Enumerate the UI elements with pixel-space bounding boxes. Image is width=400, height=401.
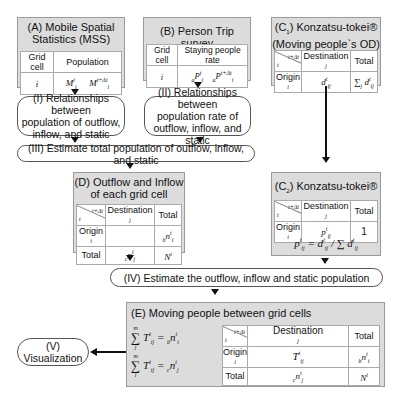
cell-inflow: cntj [248, 368, 349, 386]
col-grid-cell: Grid cell [21, 52, 54, 73]
panel-c1-konzatsu-od: (C1) Konzatsu-tokei® (Moving people`s OD… [271, 17, 381, 86]
panel-b-person-trip: (B) Person Trip survey Grid cell Staying… [143, 17, 251, 81]
cell-outflow: bnti [155, 226, 182, 247]
panel-d-outflow-inflow: (D) Outflow and Inflow of each grid cell… [73, 172, 185, 253]
col-staying-rate: Staying people rate [178, 45, 248, 66]
step-iii: (III) Estimate total population of outfl… [17, 145, 255, 162]
panel-e-title: (E) Moving people between grid cells [127, 303, 384, 319]
connector-e-to-v [96, 351, 126, 353]
panel-d-title-line2: of each grid cell [74, 188, 184, 200]
panel-e-moving-people: (E) Moving people between grid cells m ∑… [126, 302, 385, 387]
step-v-visualization: (V) Visualization [17, 338, 89, 366]
panel-c1-title-line2: (Moving people`s OD) [272, 38, 380, 50]
row-total: Total [223, 368, 248, 386]
col-total: Total [351, 201, 378, 222]
corner-cell: t+Δt t [275, 51, 302, 72]
row-origin: Origini [223, 347, 248, 368]
m-t: Mti [66, 78, 77, 88]
p-t: aPti [192, 71, 204, 81]
row-total: Total [77, 247, 106, 265]
arrow-c1-to-c2 [322, 157, 330, 163]
cell-rate-values: aPti aPt+Δti [178, 66, 248, 88]
col-total: Total [155, 205, 182, 226]
step-v-line2: Visualization [24, 352, 83, 364]
panel-a-title-line1: (A) Mobile Spatial [18, 21, 124, 33]
step-v-line1: (V) [24, 340, 83, 352]
cell-i: i [147, 66, 178, 88]
step-iv: (IV) Estimate the outflow, inflow and st… [110, 268, 383, 287]
step-iv-text: (IV) Estimate the outflow, inflow and st… [124, 272, 370, 284]
arrow-iii-to-d [126, 163, 134, 169]
col-total: Total [349, 326, 380, 347]
panel-c1-title: (C1) Konzatsu-tokei® (Moving people`s OD… [272, 18, 380, 50]
col-grid-cell: Grid cell [147, 45, 178, 66]
arrow-e-to-v [90, 348, 97, 356]
row-origin: Origini [275, 72, 302, 93]
panel-a-mss: (A) Mobile Spatial Statistics (MSS) Grid… [17, 17, 125, 88]
col-total: Total [351, 51, 378, 72]
row-i: i [36, 79, 39, 89]
equation-outflow: m ∑ j Ttij = bnti [131, 325, 191, 351]
corner-cell: t+Δt t [77, 205, 106, 226]
panel-c2-title-text: (C2) Konzatsu-tokei® [272, 180, 380, 197]
panel-c1-title-line1: (C1) Konzatsu-tokei® [272, 21, 380, 38]
col-destination: Destinationj [106, 205, 155, 226]
arrow-d-to-iv [126, 255, 134, 261]
cell-grand-total: Nt [155, 247, 182, 265]
cell-grand-total: Nt [349, 368, 380, 386]
step-ii-line2: population rate of [145, 110, 250, 122]
panel-d-title-line1: (D) Outflow and Inflow [74, 176, 184, 188]
col-destination: Destinationj [302, 201, 351, 222]
row-i: i [161, 72, 163, 82]
panel-a-title: (A) Mobile Spatial Statistics (MSS) [18, 18, 124, 45]
step-iii-text: (III) Estimate total population of outfl… [18, 142, 254, 166]
panel-a-title-line2: Statistics (MSS) [18, 33, 124, 45]
m-t-dt: Mt+Δti [89, 78, 109, 88]
p-t-dt: aPt+Δti [213, 71, 234, 81]
connector-c1-c2 [325, 86, 327, 158]
panel-c2-konzatsu: (C2) Konzatsu-tokei® t+Δt t Destinationj… [271, 172, 381, 256]
corner-cell: t+Δt t [275, 201, 302, 222]
cell-sum-d: ∑j dtij [351, 72, 378, 93]
corner-cell: t+Δt t [223, 326, 248, 347]
row-origin: Origini [77, 226, 106, 247]
formula-p-ij: ptij = dtij / ∑ dtij [272, 237, 380, 251]
cell-t-ij: Ttij [248, 347, 349, 368]
step-i-line1: (I) Relationships between [18, 92, 124, 116]
cell-outflow: bnti [349, 347, 380, 368]
equation-inflow: m ∑ i Ttij = cntj [131, 353, 191, 379]
panel-e-table: t+Δt t Destinationj Total Origini Ttij b… [222, 325, 380, 386]
step-ii-line1: (II) Relationships between [145, 86, 250, 110]
step-ii: (II) Relationships between population ra… [144, 96, 251, 136]
panel-d-title: (D) Outflow and Inflow of each grid cell [74, 173, 184, 200]
cell-empty [106, 226, 155, 247]
col-population: Population [54, 52, 122, 73]
panel-e-title-text: (E) Moving people between grid cells [131, 307, 384, 319]
col-destination: Destinationj [302, 51, 351, 72]
step-i: (I) Relationships between population of … [17, 96, 125, 136]
col-destination: Destinationj [248, 326, 349, 347]
step-i-line2: population of outflow, [18, 116, 124, 128]
arrow-c2-to-iv [321, 258, 329, 264]
panel-c2-title: (C2) Konzatsu-tokei® [272, 173, 380, 197]
arrow-iv-to-e [211, 289, 219, 295]
